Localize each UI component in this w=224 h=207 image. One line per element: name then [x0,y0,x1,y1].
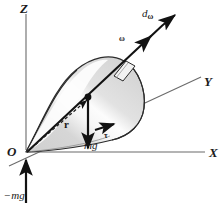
domega-d: d [142,7,148,19]
x-axis-label: X [209,146,218,159]
diagram-canvas [0,0,224,207]
r-vector-label: r [64,119,69,130]
domega-label: dω [142,4,153,20]
domega-vector [150,15,175,37]
omega-label: ω [119,35,125,43]
origin-label: O [7,145,16,158]
y-axis-label: Y [204,75,212,88]
minus-sign: − [4,189,10,201]
tau-label: τ [104,132,108,140]
z-axis-label: Z [20,2,28,15]
physics-diagram-figure: Z Y X O dω ω r τ mg −mg [0,0,224,207]
minus-mg-label: −mg [4,186,25,202]
domega-shaft [150,15,175,37]
minus-mg-text: mg [11,189,24,201]
mg-label: mg [84,140,97,151]
domega-omega: ω [148,12,154,21]
